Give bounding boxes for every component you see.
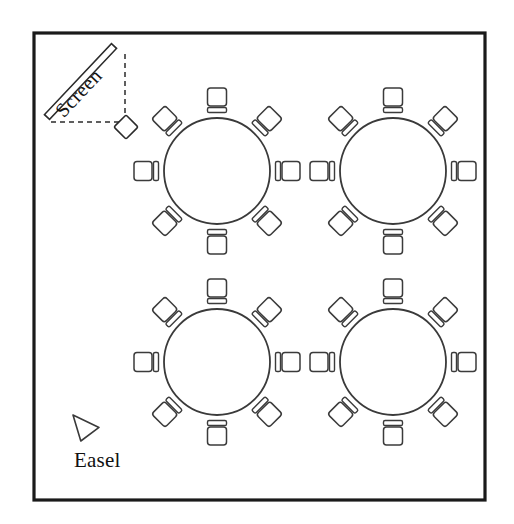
table-top bbox=[340, 118, 446, 224]
chair-seat bbox=[458, 353, 476, 372]
chair bbox=[134, 162, 159, 181]
chair-back bbox=[384, 230, 403, 235]
chair-back bbox=[154, 162, 159, 181]
chair-back bbox=[330, 162, 335, 181]
chair bbox=[276, 162, 301, 181]
chair-back bbox=[452, 353, 457, 372]
chair-back bbox=[384, 299, 403, 304]
chair-back bbox=[276, 162, 281, 181]
chair-back bbox=[276, 353, 281, 372]
chair-seat bbox=[384, 88, 403, 106]
chair-seat bbox=[384, 279, 403, 297]
chair-back bbox=[154, 353, 159, 372]
chair bbox=[384, 421, 403, 446]
chair bbox=[452, 162, 477, 181]
chair-seat bbox=[134, 162, 152, 181]
chair-back bbox=[452, 162, 457, 181]
chair bbox=[208, 88, 227, 113]
chair-seat bbox=[208, 236, 227, 254]
chair-seat bbox=[208, 427, 227, 445]
chair bbox=[208, 421, 227, 446]
floor-plan-diagram: Screen Easel bbox=[0, 0, 514, 524]
chair-seat bbox=[310, 353, 328, 372]
chair-back bbox=[208, 299, 227, 304]
chair-seat bbox=[282, 162, 300, 181]
chair bbox=[208, 230, 227, 255]
chair-back bbox=[208, 108, 227, 113]
chair bbox=[384, 88, 403, 113]
chair-seat bbox=[282, 353, 300, 372]
chair-seat bbox=[384, 236, 403, 254]
chair bbox=[276, 353, 301, 372]
chair bbox=[384, 279, 403, 304]
easel-label: Easel bbox=[74, 448, 120, 472]
chair bbox=[452, 353, 477, 372]
chair-back bbox=[384, 108, 403, 113]
chair-seat bbox=[208, 88, 227, 106]
table-top bbox=[164, 118, 270, 224]
table-top-left bbox=[134, 88, 300, 254]
table-top-right bbox=[310, 88, 476, 254]
chair-seat bbox=[384, 427, 403, 445]
table-top bbox=[164, 309, 270, 415]
chair bbox=[384, 230, 403, 255]
chair-back bbox=[330, 353, 335, 372]
chair-seat bbox=[310, 162, 328, 181]
chair bbox=[134, 353, 159, 372]
chair bbox=[310, 353, 335, 372]
chair-back bbox=[208, 421, 227, 426]
chair-seat bbox=[208, 279, 227, 297]
table-top bbox=[340, 309, 446, 415]
chair-seat bbox=[458, 162, 476, 181]
table-bottom-right bbox=[310, 279, 476, 445]
chair bbox=[208, 279, 227, 304]
table-bottom-left bbox=[134, 279, 300, 445]
chair bbox=[310, 162, 335, 181]
chair-seat bbox=[134, 353, 152, 372]
chair-back bbox=[384, 421, 403, 426]
floor-plan-canvas: Screen Easel bbox=[0, 0, 514, 524]
chair-back bbox=[208, 230, 227, 235]
room-outline bbox=[34, 33, 485, 500]
